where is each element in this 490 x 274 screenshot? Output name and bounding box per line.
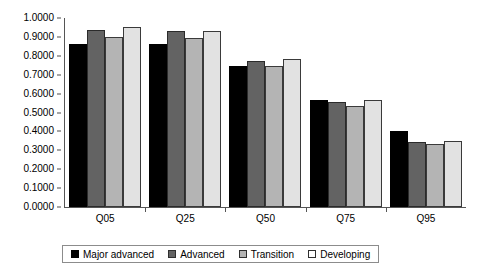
y-tick-mark [57,55,61,56]
x-tick-label-q75: Q75 [336,213,355,225]
x-tick-label-q50: Q50 [256,213,275,225]
legend-label: Developing [320,249,370,260]
y-tick-mark [57,74,61,75]
bar-q95-advanced [408,142,426,207]
bar-q95-transition [426,144,444,207]
bar-group-bars [306,18,386,207]
legend-item-developing[interactable]: Developing [308,249,370,260]
bar-chart: 1.00000.90000.80000.70000.60000.50000.40… [0,0,490,274]
y-tick-mark [57,188,61,189]
y-tick-label: 0.5000 [23,108,54,118]
x-tick-label-q95: Q95 [416,213,435,225]
bar-q75-developing [364,100,382,207]
bar-q50-advanced [247,61,265,207]
y-tick-mark [57,18,61,19]
bar-q25-major-advanced [149,44,167,207]
bar-group [145,18,225,207]
x-tick-mark [225,207,226,212]
y-tick-mark [57,131,61,132]
x-axis-line [64,207,466,208]
y-axis: 1.00000.90000.80000.70000.60000.50000.40… [0,0,64,232]
x-tick-label-q25: Q25 [176,213,195,225]
y-tick-label: 0.9000 [23,32,54,42]
x-tick-mark [306,207,307,212]
plot-area [65,18,466,207]
bar-q50-transition [265,66,283,207]
bar-q05-major-advanced [69,44,87,207]
y-tick-mark [57,207,61,208]
legend-swatch-icon [71,250,79,258]
y-tick-mark [57,112,61,113]
bar-q75-major-advanced [310,100,328,207]
y-tick-label: 0.8000 [23,51,54,61]
bar-group-bars [386,18,466,207]
bar-group [386,18,466,207]
bar-group-bars [65,18,145,207]
bar-q05-advanced [87,30,105,207]
bar-group [225,18,305,207]
x-tick-mark [386,207,387,212]
legend-label: Advanced [180,249,224,260]
x-tick-mark [145,207,146,212]
y-tick-label: 0.2000 [23,164,54,174]
legend-label: Major advanced [83,249,154,260]
legend-item-advanced[interactable]: Advanced [168,249,224,260]
plot-wrapper: 1.00000.90000.80000.70000.60000.50000.40… [0,0,490,232]
bar-group-bars [145,18,225,207]
y-tick-label: 1.0000 [23,13,54,23]
y-tick-mark [57,93,61,94]
bar-q95-developing [444,141,462,207]
chart-legend: Major advancedAdvancedTransitionDevelopi… [62,245,379,263]
y-tick-label: 0.7000 [23,70,54,80]
bar-group-bars [225,18,305,207]
bar-group [65,18,145,207]
bar-q50-developing [283,59,301,207]
y-tick-label: 0.6000 [23,89,54,99]
y-tick-mark [57,169,61,170]
bar-q25-advanced [167,31,185,207]
y-tick-mark [57,36,61,37]
bar-q75-advanced [328,102,346,207]
y-tick-label: 0.1000 [23,183,54,193]
bar-q05-developing [123,27,141,207]
bar-q50-major-advanced [229,66,247,207]
legend-label: Transition [251,249,295,260]
legend-swatch-icon [239,250,247,258]
y-tick-label: 0.4000 [23,126,54,136]
legend-item-transition[interactable]: Transition [239,249,295,260]
bar-q95-major-advanced [390,131,408,207]
bar-q05-transition [105,37,123,207]
y-tick-label: 0.0000 [23,202,54,212]
legend-swatch-icon [308,250,316,258]
y-tick-label: 0.3000 [23,145,54,155]
x-tick-label-q05: Q05 [96,213,115,225]
bar-group [306,18,386,207]
bar-q75-transition [346,106,364,207]
legend-swatch-icon [168,250,176,258]
bar-q25-developing [203,31,221,207]
y-tick-mark [57,150,61,151]
legend-item-major-advanced[interactable]: Major advanced [71,249,154,260]
bar-q25-transition [185,38,203,207]
